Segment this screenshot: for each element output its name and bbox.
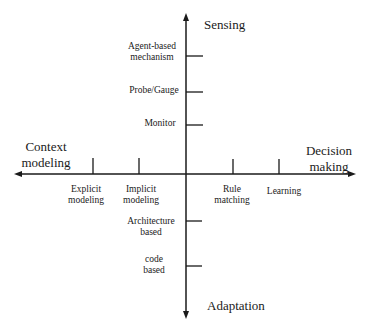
tick-label-monitor: Monitor [136,118,184,129]
label-line: Implicit [117,184,165,195]
tick-label-learning: Learning [262,186,306,197]
axis-label-line: Decision [301,143,357,159]
label-line: Learning [262,186,306,197]
tick-label-implicit-modeling: Implicit modeling [117,184,165,207]
arrow-left-icon [14,171,22,177]
axis-label-line: making [301,159,357,175]
axis-label-context-modeling: Context modeling [18,139,74,170]
label-line: matching [208,195,256,206]
axis-label-adaptation: Adaptation [207,298,265,314]
label-line: Rule [208,184,256,195]
tick-label-probe-gauge: Probe/Gauge [122,85,186,96]
label-line: based [136,265,172,276]
axis-label-sensing: Sensing [204,17,245,33]
label-line: Explicit [62,184,110,195]
axis-label-decision-making: Decision making [301,143,357,174]
tick-label-code-based: code based [136,254,172,277]
tick-label-explicit-modeling: Explicit modeling [62,184,110,207]
label-line: Monitor [136,118,184,129]
axis-label-line: Context [18,139,74,155]
label-line: modeling [62,195,110,206]
tick-label-architecture-based: Architecture based [118,216,184,239]
label-line: mechanism [120,52,184,63]
tick-label-rule-matching: Rule matching [208,184,256,207]
tick-label-agent-based: Agent-based mechanism [120,41,184,64]
label-line: code [136,254,172,265]
label-line: Probe/Gauge [122,85,186,96]
arrow-down-icon [183,311,189,319]
label-line: Architecture [118,216,184,227]
label-line: based [118,227,184,238]
label-line: modeling [117,195,165,206]
arrow-up-icon [183,13,189,21]
label-line: Agent-based [120,41,184,52]
axis-label-line: modeling [18,155,74,171]
